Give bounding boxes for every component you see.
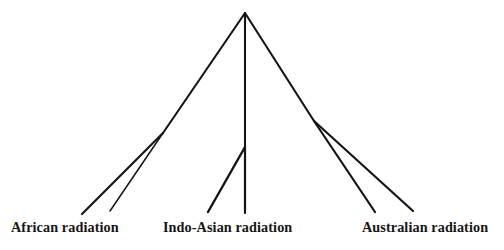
- cladogram-figure: African radiation Indo-Asian radiation A…: [0, 0, 504, 250]
- clade-label-african: African radiation: [11, 219, 119, 235]
- clade-labels: African radiation Indo-Asian radiation A…: [0, 0, 504, 250]
- clade-label-indo-asian: Indo-Asian radiation: [163, 219, 292, 235]
- clade-label-australian: Australian radiation: [362, 219, 488, 235]
